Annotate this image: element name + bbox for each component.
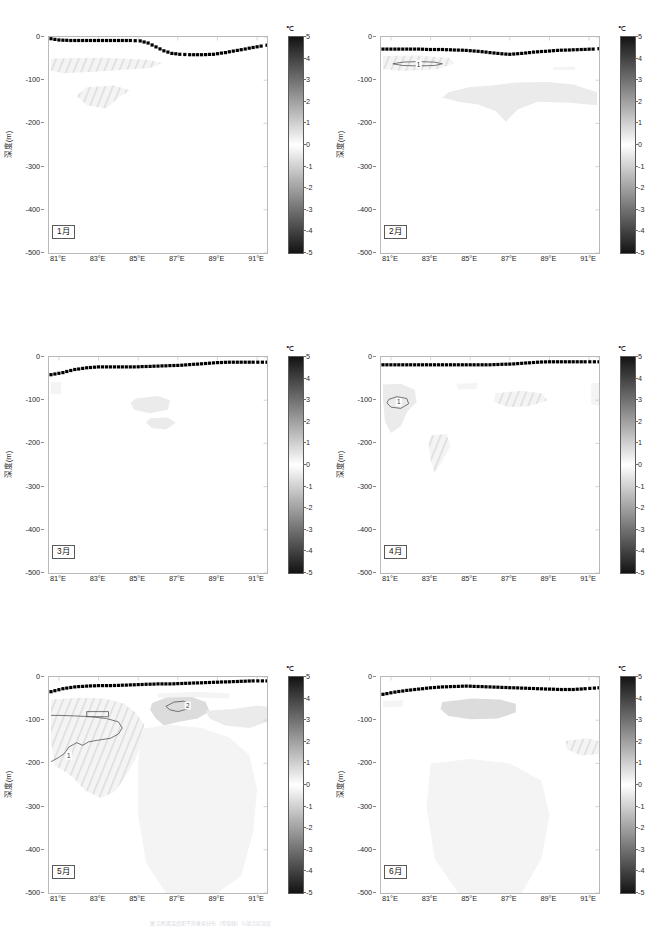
x-tick-label: 83°E: [422, 574, 438, 583]
y-tick-label: -100: [26, 75, 40, 84]
colorbar-tick-label: 3: [638, 395, 642, 404]
colorbar-tick-labels: 543210-1-2-3-4-5: [303, 356, 327, 572]
x-axis-tick-labels: 81°E83°E85°E87°E89°E91°E: [380, 894, 598, 908]
contour-label: 1: [67, 752, 71, 759]
colorbar: [620, 36, 636, 254]
shaded-region: [51, 58, 162, 74]
y-tick-label: -400: [358, 204, 372, 213]
y-tick-label: -500: [26, 568, 40, 577]
panel-month-label: 3月: [52, 545, 75, 559]
colorbar-tick-labels: 543210-1-2-3-4-5: [635, 356, 659, 572]
colorbar-tick-mark: [303, 827, 306, 828]
colorbar: [288, 676, 304, 894]
y-tick-mark: [373, 762, 377, 763]
colorbar-tick-mark: [635, 252, 638, 253]
x-tick-label: 91°E: [580, 574, 596, 583]
colorbar-tick-label: -3: [638, 844, 644, 853]
x-tick-label: 85°E: [129, 894, 145, 903]
colorbar-tick-mark: [303, 421, 306, 422]
colorbar-tick-mark: [635, 784, 638, 785]
colorbar-tick-labels: 543210-1-2-3-4-5: [303, 36, 327, 252]
colorbar-tick-label: 3: [638, 715, 642, 724]
y-tick-label: 0: [36, 352, 40, 361]
y-axis-tick-labels: 0-100-200-300-400-500: [332, 356, 376, 572]
colorbar-tick-mark: [303, 849, 306, 850]
colorbar-tick-mark: [635, 464, 638, 465]
x-tick-label: 81°E: [50, 254, 66, 263]
colorbar-tick-mark: [635, 507, 638, 508]
colorbar-tick-mark: [303, 870, 306, 871]
colorbar-tick-label: 1: [638, 758, 642, 767]
x-tick-label: 83°E: [90, 894, 106, 903]
y-tick-mark: [41, 719, 45, 720]
panel-1: 深度(m)0-100-200-300-400-50081°E83°E85°E87…: [0, 14, 332, 324]
y-axis-tick-labels: 0-100-200-300-400-500: [332, 36, 376, 252]
y-tick-mark: [373, 806, 377, 807]
y-axis-tick-labels: 0-100-200-300-400-500: [332, 676, 376, 892]
y-tick-label: -400: [26, 204, 40, 213]
x-tick-label: 87°E: [501, 254, 517, 263]
shaded-region: [51, 698, 144, 798]
plot-area: [48, 356, 268, 574]
colorbar-tick-label: 1: [638, 118, 642, 127]
x-tick-label: 89°E: [541, 254, 557, 263]
colorbar-tick-label: -4: [638, 866, 644, 875]
y-tick-mark: [41, 762, 45, 763]
colorbar-tick-label: 4: [638, 53, 642, 62]
y-tick-label: 0: [36, 32, 40, 41]
panel-3: 深度(m)0-100-200-300-400-50081°E83°E85°E87…: [0, 334, 332, 644]
x-axis-tick-labels: 81°E83°E85°E87°E89°E91°E: [380, 254, 598, 268]
y-tick-label: -300: [26, 481, 40, 490]
colorbar-tick-label: -3: [306, 204, 312, 213]
contour-label: 1: [397, 398, 401, 405]
colorbar-tick-mark: [635, 719, 638, 720]
colorbar-tick-labels: 543210-1-2-3-4-5: [303, 676, 327, 892]
colorbar-tick-label: 0: [638, 140, 642, 149]
colorbar-tick-label: 2: [638, 96, 642, 105]
colorbar-tick-mark: [303, 399, 306, 400]
colorbar-tick-mark: [635, 378, 638, 379]
colorbar-tick-mark: [303, 187, 306, 188]
colorbar-tick-mark: [303, 122, 306, 123]
y-tick-mark: [373, 36, 377, 37]
x-tick-label: 81°E: [382, 574, 398, 583]
colorbar-tick-mark: [635, 827, 638, 828]
y-tick-mark: [41, 849, 45, 850]
plot-area: [48, 36, 268, 254]
colorbar-tick-mark: [635, 36, 638, 37]
colorbar-tick-label: -2: [306, 823, 312, 832]
colorbar-tick-label: -5: [638, 568, 644, 577]
colorbar-tick-mark: [303, 79, 306, 80]
colorbar-tick-labels: 543210-1-2-3-4-5: [635, 36, 659, 252]
colorbar-tick-label: 2: [306, 96, 310, 105]
x-tick-label: 81°E: [50, 574, 66, 583]
colorbar-tick-label: -4: [306, 226, 312, 235]
shaded-region: [494, 391, 548, 407]
y-tick-label: -200: [358, 118, 372, 127]
y-tick-mark: [41, 529, 45, 530]
colorbar-gradient: [289, 357, 303, 573]
colorbar-tick-label: 0: [306, 140, 310, 149]
panel-2: 深度(m)0-100-200-300-400-50081°E83°E85°E87…: [332, 14, 664, 324]
colorbar-tick-mark: [303, 101, 306, 102]
colorbar-tick-label: 5: [638, 352, 642, 361]
colorbar-tick-mark: [635, 849, 638, 850]
colorbar-tick-mark: [303, 486, 306, 487]
colorbar-tick-mark: [303, 698, 306, 699]
x-tick-label: 91°E: [248, 254, 264, 263]
figure-root: 深度(m)0-100-200-300-400-50081°E83°E85°E87…: [0, 0, 664, 930]
y-tick-mark: [41, 399, 45, 400]
colorbar: [620, 676, 636, 894]
mixed-layer-depth-line: [381, 685, 599, 696]
y-tick-mark: [41, 79, 45, 80]
y-tick-mark: [41, 356, 45, 357]
colorbar-tick-label: -5: [306, 568, 312, 577]
colorbar-tick-label: -1: [306, 161, 312, 170]
colorbar-tick-label: 1: [638, 438, 642, 447]
colorbar-tick-mark: [303, 378, 306, 379]
colorbar-tick-mark: [635, 486, 638, 487]
colorbar-tick-label: -2: [306, 503, 312, 512]
mixed-layer-depth-line: [49, 361, 267, 377]
figure-caption: 图 沿断面温度距平的垂直分布（等值线）与混合层深度: [150, 919, 650, 928]
colorbar-tick-mark: [303, 784, 306, 785]
